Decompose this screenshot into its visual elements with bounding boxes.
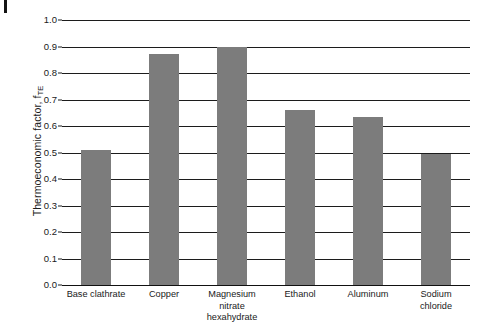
- y-tick-mark: [58, 126, 62, 127]
- bar: [81, 150, 111, 285]
- bar: [149, 54, 179, 285]
- x-axis-label-line: chloride: [402, 301, 470, 313]
- y-axis-title-text: Thermoeconomic factor, f: [31, 95, 43, 216]
- y-tick-label: 0.1: [44, 254, 57, 264]
- bar: [217, 47, 247, 286]
- x-axis-label: Aluminum: [334, 289, 402, 301]
- y-tick-mark: [58, 179, 62, 180]
- x-axis-label-line: Copper: [130, 289, 198, 301]
- y-tick-label: 1.0: [44, 15, 57, 25]
- gridline: [62, 206, 470, 207]
- y-tick-mark: [58, 232, 62, 233]
- x-axis-label-line: Magnesium: [198, 289, 266, 301]
- axis-baseline: [62, 285, 470, 286]
- y-tick-mark: [58, 99, 62, 100]
- gridline: [62, 47, 470, 48]
- x-axis-label: Magnesiumnitratehexahydrate: [198, 289, 266, 324]
- x-axis-label-line: nitrate: [198, 301, 266, 313]
- y-tick-mark: [58, 46, 62, 47]
- y-tick-label: 0.3: [44, 201, 57, 211]
- y-tick-mark: [58, 73, 62, 74]
- bar: [353, 117, 383, 285]
- x-axis-label: Copper: [130, 289, 198, 301]
- gridline: [62, 73, 470, 74]
- gridline: [62, 232, 470, 233]
- gridline: [62, 100, 470, 101]
- chart-figure: Thermoeconomic factor, fTE 0.00.10.20.30…: [0, 0, 484, 335]
- y-tick-label: 0.8: [44, 68, 57, 78]
- x-axis-label-line: Ethanol: [266, 289, 334, 301]
- y-tick-label: 0.4: [44, 174, 57, 184]
- y-tick-mark: [58, 258, 62, 259]
- x-axis-label-line: Sodium: [402, 289, 470, 301]
- x-axis-label-line: Aluminum: [334, 289, 402, 301]
- y-tick-label: 0.7: [44, 95, 57, 105]
- y-tick-label: 0.0: [44, 280, 57, 290]
- bar: [421, 154, 451, 285]
- gridline: [62, 20, 470, 21]
- y-tick-label: 0.5: [44, 148, 57, 158]
- gridline: [62, 153, 470, 154]
- x-axis-label: Ethanol: [266, 289, 334, 301]
- gridline: [62, 179, 470, 180]
- x-axis-label-line: hexahydrate: [198, 312, 266, 324]
- plot-area: 0.00.10.20.30.40.50.60.70.80.91.0: [62, 20, 470, 285]
- y-tick-label: 0.6: [44, 121, 57, 131]
- y-tick-label: 0.9: [44, 42, 57, 52]
- page-edge-artifact: [4, 0, 7, 13]
- y-tick-label: 0.2: [44, 227, 57, 237]
- x-axis-label: Base clathrate: [62, 289, 130, 301]
- gridline: [62, 126, 470, 127]
- x-axis-label-line: Base clathrate: [62, 289, 130, 301]
- y-tick-mark: [58, 285, 62, 286]
- y-axis-title: Thermoeconomic factor, fTE: [31, 36, 43, 266]
- x-axis-label: Sodiumchloride: [402, 289, 470, 312]
- gridline: [62, 259, 470, 260]
- y-tick-mark: [58, 20, 62, 21]
- bar: [285, 110, 315, 285]
- y-tick-mark: [58, 205, 62, 206]
- y-tick-mark: [58, 152, 62, 153]
